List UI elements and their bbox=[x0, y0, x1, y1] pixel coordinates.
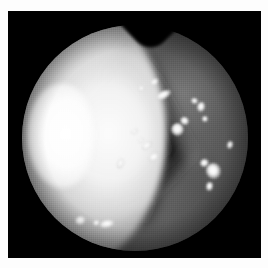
image-plate bbox=[8, 11, 261, 258]
crescent-core-highlight bbox=[27, 84, 95, 188]
endoscope-field-of-view bbox=[22, 25, 248, 251]
image-viewport bbox=[0, 0, 268, 268]
